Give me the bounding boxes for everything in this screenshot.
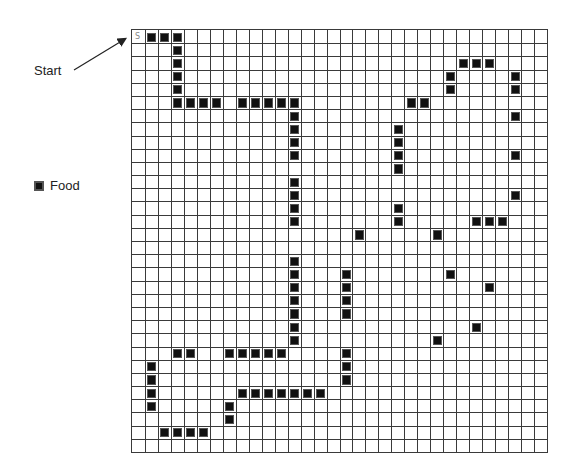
start-label: Start — [34, 63, 61, 78]
start-arrow-icon — [0, 0, 577, 472]
legend: Food — [34, 178, 80, 193]
legend-food-label: Food — [50, 178, 80, 193]
food-legend-swatch-icon — [34, 181, 44, 191]
